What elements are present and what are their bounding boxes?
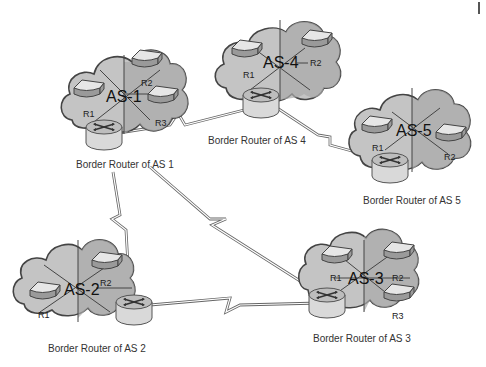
as3-border-router-icon[interactable] [309, 288, 345, 318]
as2-r1-label: R1 [38, 310, 50, 320]
as3-border-router-label: Border Router of AS 3 [313, 333, 411, 344]
as5-r2-label: R2 [444, 152, 456, 162]
as3-label: AS-3 [348, 270, 384, 287]
as2-label: AS-2 [64, 281, 100, 298]
as1-r2-device-icon [132, 50, 162, 67]
as2-cloud-group: AS-2 R2 R1 Border Router of AS 2 [13, 240, 152, 354]
as3-r1-label: R1 [330, 273, 342, 283]
as1-r1-label: R1 [83, 109, 95, 119]
as1-label: AS-1 [106, 88, 142, 105]
as1-r3-label: R3 [155, 118, 167, 128]
as5-border-router-label: Border Router of AS 5 [363, 195, 461, 206]
as5-border-router-icon[interactable] [372, 153, 408, 183]
as2-border-router-label: Border Router of AS 2 [48, 343, 146, 354]
as3-r2-label: R2 [392, 273, 404, 283]
as4-r1-label: R1 [243, 70, 255, 80]
as1-cloud-group: AS-1 R1 R2 R3 Border Router of AS 1 [61, 50, 188, 170]
link-as2-as3 [150, 298, 320, 312]
as1-r2-label: R2 [141, 78, 153, 88]
as4-r2-label: R2 [310, 58, 322, 68]
as2-border-router-icon[interactable] [116, 295, 152, 325]
as5-cloud-group: AS-5 R1 R2 Border Router of AS 5 [349, 88, 471, 206]
as4-border-router-icon[interactable] [243, 88, 279, 118]
network-diagram: AS-1 R1 R2 R3 Border Router of AS 1 AS-4… [0, 0, 486, 367]
as5-label: AS-5 [396, 122, 432, 139]
as3-cloud-group: AS-3 R1 R2 R3 Border Router of AS 3 [299, 229, 419, 344]
as4-border-router-label: Border Router of AS 4 [208, 135, 306, 146]
as4-cloud-group: AS-4 R2 R1 Border Router of AS 4 [208, 20, 340, 146]
as2-r2-label: R2 [100, 278, 112, 288]
as1-border-router-icon[interactable] [86, 120, 122, 150]
as3-r3-label: R3 [392, 311, 404, 321]
as4-label: AS-4 [263, 54, 299, 71]
as1-border-router-label: Border Router of AS 1 [76, 159, 174, 170]
as5-r1-label: R1 [372, 143, 384, 153]
